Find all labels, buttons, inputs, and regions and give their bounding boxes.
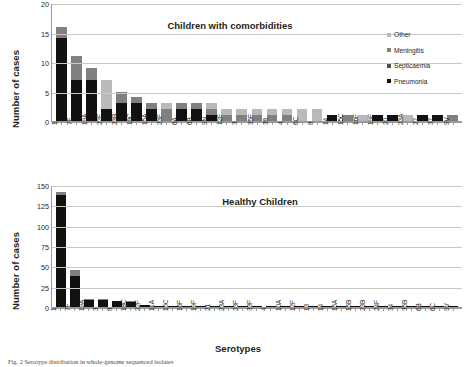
stacked-bar[interactable] — [56, 192, 66, 307]
x-tick-label: 3 — [92, 307, 99, 311]
x-tick-label: 19A — [78, 300, 85, 311]
x-tick: 15C — [165, 309, 179, 343]
tick-mark — [272, 123, 273, 125]
y-tick-label: 20 — [41, 0, 49, 9]
x-tick: 6C — [294, 123, 309, 163]
y-tick-label: 125 — [37, 202, 49, 211]
tick-mark — [313, 309, 314, 311]
tick-mark — [144, 309, 145, 311]
x-tick: 10A — [278, 309, 292, 343]
x-tick-label: 4 — [260, 307, 267, 311]
x-tick-label: 24F — [372, 300, 379, 311]
x-tick: 19A — [83, 123, 98, 163]
x-axis-title: Serotypes — [0, 343, 476, 354]
tick-mark — [172, 309, 173, 311]
stacked-bar[interactable] — [98, 299, 108, 307]
legend-label-meningitis: Meningitis — [394, 47, 424, 54]
tick-mark — [287, 123, 288, 125]
x-tick: 11A — [151, 309, 165, 343]
x-tick-label: 8 — [306, 121, 313, 125]
x-tick-label: 9V — [442, 303, 449, 311]
x-tick-label: 8 — [106, 307, 113, 311]
x-tick: 4 — [279, 123, 294, 163]
stacked-bar[interactable] — [432, 115, 443, 121]
legend-item-pneumonia: Pneumonia — [387, 78, 473, 85]
x-tick-label: 1 — [50, 121, 57, 125]
y-tick-label: 25 — [41, 283, 49, 292]
x-tick-label: 16F — [176, 300, 183, 311]
stacked-bar[interactable] — [221, 109, 232, 121]
x-tick-label: 1 — [50, 307, 57, 311]
x-tick: 3 — [95, 309, 109, 343]
tick-mark — [136, 123, 137, 125]
x-tick: 23B — [113, 123, 128, 163]
x-tick-label: 14 — [321, 118, 328, 125]
tick-mark — [369, 309, 370, 311]
stacked-bar[interactable] — [56, 27, 67, 121]
y-tick-label: 150 — [37, 182, 49, 191]
x-tick: 1 — [53, 123, 68, 163]
x-tick: 33F — [249, 309, 263, 343]
x-tick: 14 — [324, 123, 339, 163]
tick-mark — [453, 309, 454, 311]
tick-mark — [341, 309, 342, 311]
x-tick: 6C — [432, 309, 446, 343]
chart-panel-healthy: Number of cases 1501251007550250 Healthy… — [0, 186, 476, 356]
bar-segment-meningitis — [86, 68, 97, 80]
x-tick: 18C — [123, 309, 137, 343]
stacked-bar[interactable] — [71, 56, 82, 121]
x-tick-label: 23A — [218, 300, 225, 311]
tick-mark — [151, 123, 152, 125]
stacked-bar[interactable] — [84, 299, 94, 307]
x-tick-label: 22F — [95, 114, 102, 125]
tick-mark — [411, 309, 412, 311]
x-tick-label: 9V — [442, 117, 449, 125]
bottom-x-axis-ticklabels: 17F19A3818C22F11A15C16F19F2123A23F33F410… — [51, 309, 462, 343]
x-tick-label: 35B — [400, 300, 407, 311]
x-tick-label: 7F — [65, 118, 72, 125]
gridline — [52, 288, 462, 289]
x-tick: 15A — [334, 309, 348, 343]
x-tick-label: 12F — [216, 114, 223, 125]
tick-mark — [76, 123, 77, 125]
tick-mark — [256, 309, 257, 311]
x-tick: 15C — [339, 123, 354, 163]
tick-mark — [437, 123, 438, 125]
y-tick-label: 100 — [37, 222, 49, 231]
x-tick: 9V — [445, 123, 460, 163]
x-tick-label: 23F — [156, 114, 163, 125]
top-y-axis-title: Number of cases — [10, 32, 21, 128]
legend-label-other: Other — [394, 31, 411, 38]
x-tick-label: 14 — [316, 304, 323, 311]
tick-mark — [241, 123, 242, 125]
x-tick-label: 13 — [302, 304, 309, 311]
x-tick-label: 23F — [232, 300, 239, 311]
legend-label-pneumonia: Pneumonia — [394, 78, 427, 85]
x-tick-label: 19F — [190, 300, 197, 311]
y-tick-label: 75 — [41, 243, 49, 252]
x-tick: 20 — [385, 123, 400, 163]
top-x-axis-ticklabels: 17F19A22F23B18C15A23F6A6B9N12F335F3846C8… — [51, 123, 462, 163]
x-tick: 16F — [355, 123, 370, 163]
x-tick: 18C — [128, 123, 143, 163]
tick-mark — [211, 123, 212, 125]
bar-segment-pneumonia — [84, 300, 94, 307]
tick-mark — [257, 123, 258, 125]
top-y-axis-ticks: 20151050 — [27, 4, 49, 122]
tick-mark — [285, 309, 286, 311]
bottom-y-axis-ticks: 1501251007550250 — [27, 186, 49, 308]
x-tick: 1 — [53, 309, 67, 343]
legend-label-septicaemia: Septicaemia — [394, 62, 430, 69]
tick-mark — [61, 123, 62, 125]
tick-mark — [425, 309, 426, 311]
bottom-y-axis-title: Number of cases — [10, 202, 21, 310]
y-tick-label: 15 — [41, 29, 49, 38]
tick-mark — [214, 309, 215, 311]
top-chart-title: Children with comorbidities — [120, 20, 340, 31]
x-tick-label: 15C — [162, 299, 169, 311]
bottom-chart-title: Healthy Children — [150, 196, 370, 207]
x-tick-label: 16F — [352, 114, 359, 125]
x-tick: 22F — [137, 309, 151, 343]
tick-mark — [383, 309, 384, 311]
tick-mark — [317, 123, 318, 125]
